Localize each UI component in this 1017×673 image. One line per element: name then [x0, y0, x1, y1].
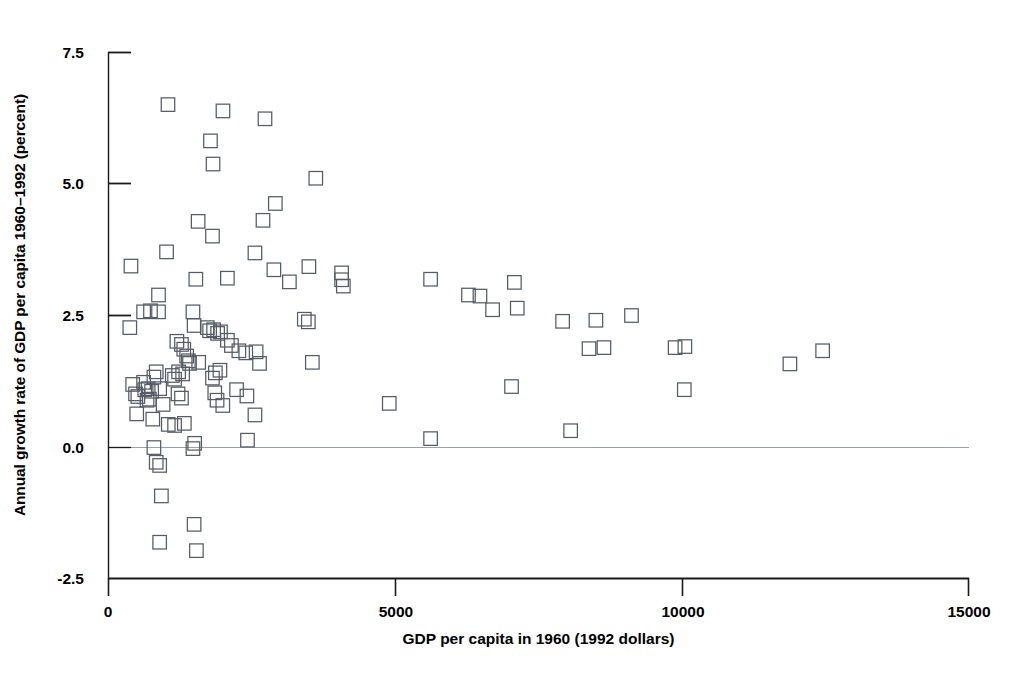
- data-point: [256, 214, 270, 228]
- data-point: [508, 276, 522, 290]
- scatter-plot-figure: Annual growth rate of GDP per capita 196…: [0, 0, 1017, 673]
- data-point: [187, 518, 201, 532]
- data-point: [149, 456, 163, 470]
- y-tick-label-5.0: 5.0: [22, 175, 84, 193]
- data-point: [221, 271, 235, 285]
- data-point: [175, 391, 189, 405]
- data-point: [171, 387, 185, 401]
- y-tick-label-0.0: 0.0: [22, 439, 84, 457]
- data-point: [241, 433, 255, 447]
- data-point: [597, 341, 611, 355]
- data-point: [486, 303, 500, 317]
- data-point: [189, 272, 203, 286]
- data-point: [152, 288, 166, 302]
- data-point: [216, 104, 230, 118]
- x-tick-label-5000: 5000: [350, 603, 442, 621]
- data-point: [124, 259, 137, 273]
- x-tick-label-0: 0: [78, 603, 138, 621]
- data-point: [564, 424, 578, 438]
- data-point: [383, 397, 397, 411]
- data-point: [191, 215, 205, 229]
- data-point: [206, 229, 220, 243]
- data-point: [160, 245, 174, 259]
- plot-canvas: [0, 0, 1017, 673]
- data-point: [582, 342, 596, 356]
- data-point: [153, 535, 167, 549]
- y-tick-label--2.5: -2.5: [14, 570, 84, 588]
- data-point: [678, 340, 692, 354]
- y-tick-label-2.5: 2.5: [22, 307, 84, 325]
- data-point: [248, 246, 262, 260]
- data-point: [668, 341, 682, 355]
- data-point: [206, 157, 220, 171]
- data-point: [589, 314, 603, 328]
- data-point: [146, 412, 160, 426]
- y-tick-label-7.5: 7.5: [22, 44, 84, 62]
- data-point: [161, 98, 175, 112]
- data-point: [424, 272, 438, 286]
- data-point: [625, 309, 639, 323]
- data-point: [130, 407, 144, 421]
- data-point: [258, 112, 272, 126]
- data-point: [783, 357, 797, 371]
- data-point: [505, 380, 519, 394]
- x-tick-label-10000: 10000: [631, 603, 735, 621]
- data-point: [153, 459, 167, 473]
- data-point: [511, 301, 525, 315]
- data-point: [309, 171, 323, 185]
- data-markers-group: [123, 98, 829, 558]
- data-point: [248, 408, 262, 422]
- data-point: [152, 305, 166, 319]
- data-point: [556, 315, 570, 329]
- data-point: [206, 371, 220, 385]
- data-point: [306, 356, 320, 370]
- data-point: [156, 398, 170, 412]
- data-point: [302, 260, 316, 274]
- data-point: [424, 432, 438, 446]
- data-point: [267, 263, 281, 277]
- axes-group: [108, 52, 969, 596]
- data-point: [283, 275, 297, 289]
- data-point: [187, 319, 201, 333]
- data-point: [816, 344, 830, 358]
- x-axis-label: GDP per capita in 1960 (1992 dollars): [108, 630, 969, 648]
- data-point: [678, 383, 692, 397]
- data-point: [204, 134, 218, 148]
- data-point: [155, 489, 169, 503]
- data-point: [225, 339, 239, 353]
- data-point: [123, 321, 137, 335]
- data-point: [190, 544, 204, 558]
- data-point: [186, 305, 200, 319]
- x-tick-label-15000: 15000: [917, 603, 1017, 621]
- data-point: [269, 197, 283, 211]
- data-point: [216, 399, 230, 413]
